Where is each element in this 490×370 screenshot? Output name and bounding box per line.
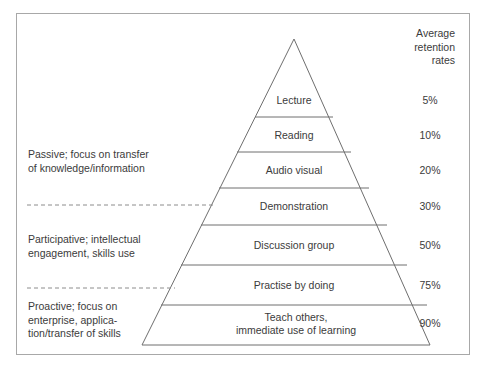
- retention-rate-practise-by-doing: 75%: [400, 279, 460, 292]
- retention-rate-teach-others: 90%: [400, 317, 460, 330]
- tier-label-audio-visual: Audio visual: [224, 164, 364, 177]
- side-note-passive: Passive; focus on transfer of knowledge/…: [28, 148, 208, 175]
- retention-rate-audio-visual: 20%: [400, 164, 460, 177]
- tier-label-reading: Reading: [234, 129, 354, 142]
- learning-pyramid-figure: Average retention rates Lecture Reading …: [0, 0, 490, 370]
- retention-rate-discussion-group: 50%: [400, 239, 460, 252]
- side-note-participative: Participative; intellectual engagement, …: [28, 233, 208, 260]
- side-note-proactive: Proactive; focus on enterprise, applica-…: [28, 300, 208, 341]
- retention-rate-lecture: 5%: [400, 94, 460, 107]
- tier-label-demonstration: Demonstration: [214, 200, 374, 213]
- retention-rate-demonstration: 30%: [400, 200, 460, 213]
- retention-rate-reading: 10%: [400, 129, 460, 142]
- average-retention-rates-header: Average retention rates: [414, 27, 455, 68]
- tier-label-lecture: Lecture: [244, 94, 344, 107]
- tier-label-discussion-group: Discussion group: [199, 239, 389, 252]
- tier-label-practise-by-doing: Practise by doing: [184, 279, 404, 292]
